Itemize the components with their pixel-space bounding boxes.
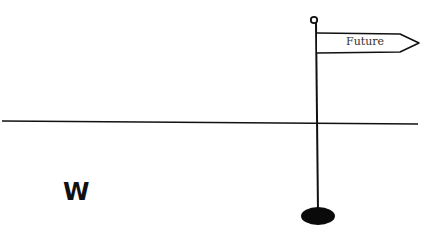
timeline-line — [2, 121, 418, 124]
pole-base — [301, 207, 335, 225]
pole-knob — [311, 17, 317, 23]
flag-label: Future — [330, 35, 400, 48]
marker-label: W — [63, 178, 89, 206]
